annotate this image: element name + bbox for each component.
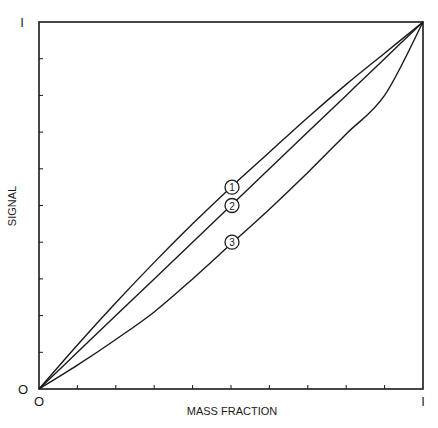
x-max-label: I [421, 394, 425, 409]
curve-label-text: 3 [229, 237, 235, 248]
curve-label-text: 2 [229, 201, 235, 212]
x-axis-title: MASS FRACTION [187, 405, 278, 417]
curve-labels: 123 [225, 180, 239, 249]
y-max-label: I [20, 15, 24, 30]
curve-label-text: 1 [229, 182, 235, 193]
x-min-label: O [34, 394, 44, 409]
y-axis-title: SIGNAL [6, 186, 18, 226]
y-min-label: O [18, 382, 28, 397]
chart-canvas: 123 I O O I MASS FRACTION SIGNAL [0, 0, 438, 428]
